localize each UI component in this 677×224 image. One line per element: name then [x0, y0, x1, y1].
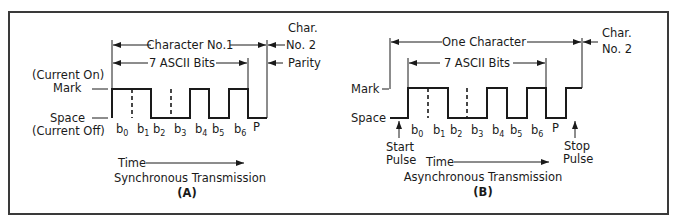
- panel-b-asynchronous: Mark Space One Character 7 ASCII Bits Ch…: [351, 26, 632, 199]
- panel-a-caption-title: Synchronous Transmission: [114, 171, 266, 185]
- bit-label-b3: b3: [174, 122, 186, 138]
- bit-label-b2: b2: [450, 123, 462, 139]
- async-waveform: [390, 88, 582, 118]
- space-label: Space: [50, 111, 85, 125]
- bit-label-b6: b6: [531, 123, 543, 139]
- time-label: Time: [425, 155, 454, 169]
- bit-label-b5: b5: [510, 123, 522, 139]
- bit-label-b6: b6: [234, 122, 246, 138]
- bit-label-b3: b3: [471, 123, 483, 139]
- transmission-diagram: (Current On) Mark Space (Current Off) Ch…: [0, 0, 677, 224]
- bit-label-b1: b1: [433, 123, 445, 139]
- panel-b-caption-letter: (B): [473, 185, 492, 199]
- stop-pulse-label-line2: Pulse: [563, 152, 593, 166]
- bits-span-label: 7 ASCII Bits: [149, 56, 215, 70]
- mark-label: Mark: [351, 82, 380, 96]
- space-sub-label: (Current Off): [32, 124, 105, 138]
- bits-span-label: 7 ASCII Bits: [444, 56, 510, 70]
- stop-pulse-label-line1: Stop: [564, 139, 590, 153]
- bit-label-b5: b5: [212, 122, 224, 138]
- bit-label-parity: P: [253, 120, 260, 134]
- panel-a-caption-letter: (A): [177, 186, 196, 200]
- bit-label-b0: b0: [116, 122, 128, 138]
- bit-label-b0: b0: [411, 123, 423, 139]
- bit-label-parity: P: [552, 121, 559, 135]
- start-pulse-label-line2: Pulse: [386, 153, 416, 167]
- next-char-label-line2: No. 2: [602, 42, 632, 56]
- sync-waveform: [112, 89, 267, 118]
- mark-sub-label: (Current On): [32, 68, 104, 82]
- time-label: Time: [117, 156, 146, 170]
- panel-b-caption-title: Asynchronous Transmission: [404, 170, 563, 184]
- bit-label-b1: b1: [137, 122, 149, 138]
- bit-label-b4: b4: [195, 122, 207, 138]
- next-char-label-line1: Char.: [288, 21, 318, 35]
- character-span-label: One Character: [442, 35, 526, 49]
- mark-label: Mark: [53, 81, 82, 95]
- space-label: Space: [351, 111, 386, 125]
- panel-a-synchronous: (Current On) Mark Space (Current Off) Ch…: [32, 21, 321, 200]
- next-char-label-line2: No. 2: [286, 38, 316, 52]
- start-pulse-label-line1: Start: [386, 140, 415, 154]
- next-char-label-line1: Char.: [602, 26, 632, 40]
- bit-label-b4: b4: [492, 123, 504, 139]
- bit-label-b2: b2: [153, 122, 165, 138]
- parity-label: Parity: [288, 56, 321, 70]
- character-span-label: Character No.1: [147, 38, 234, 52]
